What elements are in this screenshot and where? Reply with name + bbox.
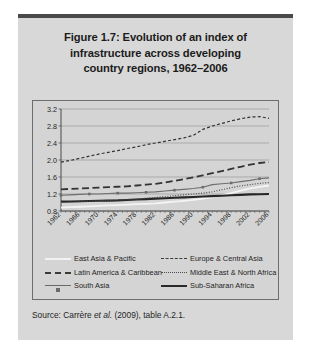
legend-item-europe-central-asia: Europe & Central Asia <box>161 253 279 264</box>
svg-text:3.2: 3.2 <box>47 105 57 114</box>
legend-swatch-latin-america-caribbean <box>45 268 71 277</box>
svg-text:1998: 1998 <box>216 211 232 227</box>
legend-label-east-asia-pacific: East Asia & Pacific <box>74 254 136 263</box>
legend-swatch-south-asia <box>45 281 71 290</box>
svg-text:2.4: 2.4 <box>47 139 57 148</box>
svg-text:2.0: 2.0 <box>47 156 57 165</box>
legend-item-south-asia: South Asia <box>45 280 163 291</box>
title-line-3: country regions, 1962–2006 <box>28 61 283 77</box>
svg-text:1.2: 1.2 <box>47 190 57 199</box>
chart-legend: East Asia & Pacific Latin America & Cari… <box>33 251 278 299</box>
plot-area: 0.81.21.62.02.42.83.21962196619701974197… <box>33 101 278 249</box>
svg-text:1994: 1994 <box>197 211 213 227</box>
legend-swatch-sub-saharan-africa <box>161 281 187 290</box>
svg-text:1970: 1970 <box>84 211 100 227</box>
legend-item-middle-east-north-africa: Middle East & North Africa <box>161 267 279 278</box>
legend-column-right: Europe & Central Asia Middle East & Nort… <box>161 253 279 294</box>
legend-swatch-east-asia-pacific <box>45 254 71 263</box>
title-line-1: Figure 1.7: Evolution of an index of <box>28 30 283 46</box>
svg-text:2006: 2006 <box>254 211 270 227</box>
svg-text:1990: 1990 <box>178 211 194 227</box>
svg-text:1982: 1982 <box>140 211 156 227</box>
svg-text:2.8: 2.8 <box>47 122 57 131</box>
title-line-2: infrastructure across developing <box>28 46 283 62</box>
line-chart-svg: 0.81.21.62.02.42.83.21962196619701974197… <box>33 101 277 249</box>
chart-frame: 0.81.21.62.02.42.83.21962196619701974197… <box>32 100 279 300</box>
legend-label-middle-east-north-africa: Middle East & North Africa <box>190 268 276 277</box>
legend-swatch-middle-east-north-africa <box>161 268 187 277</box>
legend-item-latin-america-caribbean: Latin America & Caribbean <box>45 267 163 278</box>
figure-title: Figure 1.7: Evolution of an index of inf… <box>28 30 283 77</box>
svg-text:2002: 2002 <box>235 211 251 227</box>
svg-text:1978: 1978 <box>121 211 137 227</box>
legend-item-sub-saharan-africa: Sub-Saharan Africa <box>161 280 279 291</box>
svg-text:1974: 1974 <box>102 211 118 227</box>
svg-text:1986: 1986 <box>159 211 175 227</box>
legend-column-left: East Asia & Pacific Latin America & Cari… <box>45 253 163 294</box>
figure-card: Figure 1.7: Evolution of an index of inf… <box>18 14 293 340</box>
legend-label-latin-america-caribbean: Latin America & Caribbean <box>74 268 162 277</box>
source-prefix: Source: Carrère <box>32 310 94 320</box>
source-italic: et al. <box>94 310 112 320</box>
legend-item-east-asia-pacific: East Asia & Pacific <box>45 253 163 264</box>
card-top-rule <box>18 14 293 18</box>
legend-swatch-europe-central-asia <box>161 254 187 263</box>
source-suffix: (2009), table A.2.1. <box>112 310 185 320</box>
legend-label-south-asia: South Asia <box>74 281 109 290</box>
svg-text:1966: 1966 <box>65 211 81 227</box>
svg-text:1.6: 1.6 <box>47 173 57 182</box>
legend-label-europe-central-asia: Europe & Central Asia <box>190 254 263 263</box>
figure-page: Figure 1.7: Evolution of an index of inf… <box>0 0 311 356</box>
source-note: Source: Carrère et al. (2009), table A.2… <box>32 310 185 320</box>
legend-label-sub-saharan-africa: Sub-Saharan Africa <box>190 281 254 290</box>
